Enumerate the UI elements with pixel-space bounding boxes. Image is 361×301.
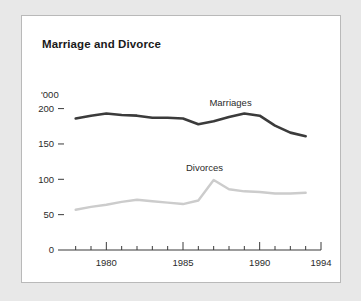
y-axis-group: 050100150200'000 (38, 89, 64, 256)
x-axis-tick-label: 1980 (96, 257, 117, 268)
y-axis-unit-label: '000 (41, 89, 59, 100)
series-labels-group: MarriagesDivorces (186, 97, 252, 172)
chart-panel: Marriage and Divorce 050100150200'000 19… (21, 15, 341, 283)
x-axis-tick-label: 1990 (249, 257, 270, 268)
y-axis-tick-label: 100 (38, 174, 54, 185)
series-line-divorces (76, 180, 306, 210)
x-axis-tick-label: 1985 (172, 257, 193, 268)
y-axis-tick-label: 200 (38, 103, 54, 114)
series-label-divorces: Divorces (186, 162, 223, 173)
line-chart-plot: 050100150200'000 1980198519901994 Marria… (22, 16, 342, 284)
y-axis-tick-label: 150 (38, 138, 54, 149)
y-axis-tick-label: 50 (43, 209, 54, 220)
x-axis-group: 1980198519901994 (58, 242, 332, 268)
series-label-marriages: Marriages (209, 97, 251, 108)
y-axis-tick-label: 0 (49, 244, 54, 255)
series-line-marriages (76, 114, 306, 137)
x-axis-tick-label: 1994 (310, 257, 331, 268)
